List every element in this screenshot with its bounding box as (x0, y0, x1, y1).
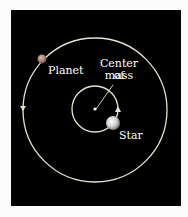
planet-label: Planet (48, 65, 84, 77)
star-label: Star (119, 130, 143, 142)
center-of-mass-dot (93, 107, 96, 110)
planet-icon (38, 55, 47, 64)
planet-orbit-arrow-icon (20, 106, 26, 111)
center-of-mass-label-line2: mass (94, 70, 144, 82)
star-icon (106, 116, 120, 130)
orbit-diagram (0, 0, 188, 217)
star-orbit-arrow-icon (115, 106, 121, 112)
